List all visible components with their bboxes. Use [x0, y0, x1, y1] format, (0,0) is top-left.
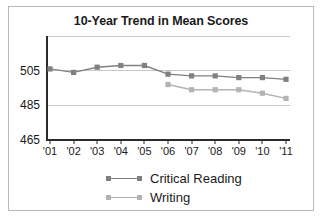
data-point-marker: [142, 63, 147, 68]
legend-key-critical-reading: [106, 174, 142, 184]
data-point-marker: [236, 75, 241, 80]
data-point-marker: [165, 72, 170, 77]
chart-legend: Critical Reading Writing: [8, 169, 314, 207]
legend-label-critical-reading: Critical Reading: [150, 171, 242, 186]
data-point-marker: [283, 96, 288, 101]
x-axis-tick-labels: '01'02'03'04'05'06'07'08'09'10'11: [46, 145, 290, 161]
legend-label-writing: Writing: [150, 190, 190, 205]
y-axis-tick-labels: 465485505: [0, 36, 42, 140]
data-point-marker: [95, 65, 100, 70]
series-line-writing: [168, 85, 286, 99]
data-point-marker: [189, 87, 194, 92]
data-point-marker: [189, 73, 194, 78]
data-point-marker: [165, 82, 170, 87]
legend-item-critical-reading: Critical Reading: [8, 169, 314, 188]
data-point-marker: [213, 73, 218, 78]
y-tick-label-505: 505: [0, 64, 40, 78]
chart-figure: 10-Year Trend in Mean Scores 465485505 '…: [0, 0, 324, 223]
data-point-marker: [260, 91, 265, 96]
chart-title: 10-Year Trend in Mean Scores: [8, 14, 314, 28]
data-point-marker: [213, 87, 218, 92]
y-tick-label-465: 465: [0, 133, 40, 147]
data-point-marker: [260, 75, 265, 80]
series-lines: [46, 36, 290, 140]
data-point-marker: [47, 66, 52, 71]
legend-item-writing: Writing: [8, 188, 314, 207]
data-point-marker: [118, 63, 123, 68]
data-point-marker: [71, 70, 76, 75]
y-tick-label-485: 485: [0, 98, 40, 112]
x-tick-label-11: '11: [271, 145, 301, 157]
data-point-marker: [283, 77, 288, 82]
legend-key-writing: [106, 193, 142, 203]
data-point-marker: [236, 87, 241, 92]
